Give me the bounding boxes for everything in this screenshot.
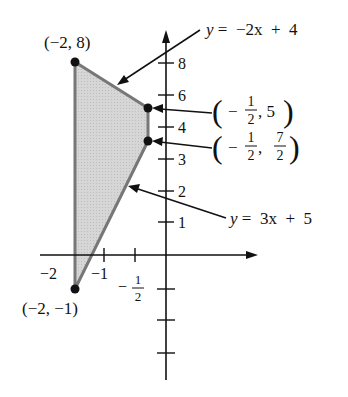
svg-text:(: ( [212,129,223,165]
x-axis [40,248,258,262]
y-tick-label: 8 [178,55,186,72]
svg-text:(: ( [212,93,223,129]
svg-text:1: 1 [248,130,255,145]
svg-text:y = −2x + 4: y = −2x + 4 [204,20,298,39]
svg-text:,: , [258,138,262,157]
svg-text:1: 1 [248,94,255,109]
pointer-p2 [152,104,212,113]
svg-text:): ) [289,129,300,165]
svg-text:1: 1 [135,272,142,287]
y-tick-label: 4 [178,119,186,136]
vertex-point [144,104,153,113]
svg-text:2: 2 [277,148,284,163]
svg-text:−: − [118,278,127,295]
x-tick-label: −1 [91,265,108,282]
equation-line2: y = 3x + 5 [228,209,312,228]
svg-text:−: − [228,138,238,157]
pointer-line2 [128,184,226,218]
vertex-point [144,137,153,146]
y-tick-label: 2 [178,183,186,200]
vertex-point [71,58,80,67]
pointer-p3 [152,137,212,148]
x-tick-label: −2 [40,265,57,282]
svg-text:−: − [228,102,238,121]
svg-text:2: 2 [135,289,142,304]
svg-text:2: 2 [248,148,255,163]
y-axis [157,30,175,380]
y-tick-label: 6 [178,87,186,104]
vertex-label: ( − 1 2 , 7 2 ) [212,129,300,165]
graph: 8 6 4 3 2 1 −2 −1 − 1 2 (−2, 8) (−2, −1)… [0,0,348,397]
svg-text:y = 3x + 5: y = 3x + 5 [228,209,312,228]
equation-line1: y = −2x + 4 [204,20,298,39]
vertex-label: (−2, 8) [44,33,90,52]
vertex-label: ( − 1 2 , 5 ) [212,93,294,129]
vertex-label: (−2, −1) [22,299,78,318]
vertex-point [71,285,80,294]
x-tick-label-half: − 1 2 [118,272,144,304]
svg-text:7: 7 [277,130,284,145]
y-tick-label: 1 [178,214,186,231]
svg-text:, 5: , 5 [258,102,275,121]
svg-text:2: 2 [248,112,255,127]
svg-text:): ) [283,93,294,129]
y-tick-label: 3 [178,151,186,168]
pointer-line1 [117,30,200,85]
